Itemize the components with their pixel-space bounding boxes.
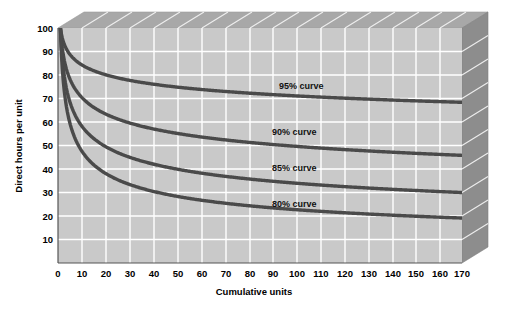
curve-label-85: 85% curve [272,163,317,173]
y-tick-label: 40 [42,164,53,175]
x-tick-label: 50 [173,268,184,279]
x-tick-label: 70 [221,268,232,279]
y-tick-label: 100 [37,23,53,34]
x-tick-label: 130 [361,268,377,279]
x-tick-label: 120 [337,268,353,279]
x-tick-label: 170 [454,268,470,279]
y-tick-label: 80 [42,70,53,81]
y-tick-label: 20 [42,211,53,222]
x-tick-label: 80 [245,268,256,279]
x-tick-label: 150 [408,268,424,279]
x-tick-label: 10 [77,268,88,279]
curve-label-95: 95% curve [279,81,324,91]
x-tick-label: 140 [385,268,401,279]
curve-label-80: 80% curve [272,199,317,209]
learning-curve-chart: 100 90 80 70 60 50 40 30 20 10 0 10 20 3… [0,0,509,312]
y-tick-label: 90 [42,46,53,57]
x-tick-label: 160 [432,268,448,279]
x-tick-label: 0 [55,268,60,279]
x-tick-label: 110 [313,268,328,279]
x-tick-label: 20 [101,268,112,279]
y-tick-label: 10 [42,234,53,245]
x-axis-title: Cumulative units [216,286,293,297]
y-tick-label: 30 [42,187,53,198]
x-tick-label: 100 [289,268,305,279]
curve-label-90: 90% curve [272,127,317,137]
y-tick-label: 50 [42,140,53,151]
x-tick-label: 30 [125,268,136,279]
y-axis-title: Direct hours per unit [13,98,24,192]
x-tick-label: 60 [197,268,208,279]
chart-figure: 100 90 80 70 60 50 40 30 20 10 0 10 20 3… [0,0,509,312]
y-tick-label: 60 [42,117,53,128]
x-tick-label: 40 [149,268,160,279]
x-tick-label: 90 [268,268,279,279]
y-tick-label: 70 [42,93,53,104]
